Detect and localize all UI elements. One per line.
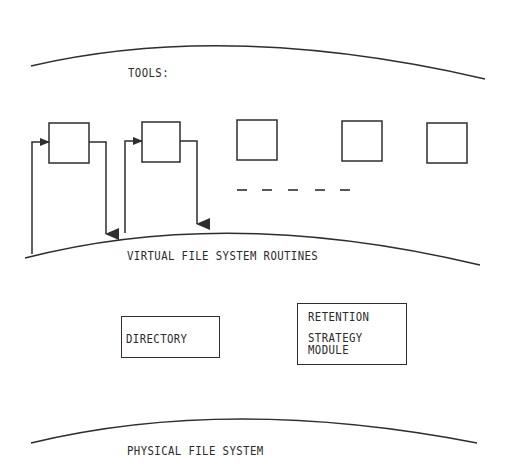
tool1-output-arrow: [89, 142, 106, 234]
physical-layer-arc: [31, 419, 477, 443]
directory-module: DIRECTORY: [121, 316, 220, 358]
tool2-output-arrow: [180, 141, 197, 224]
tool2-input-arrow: [125, 141, 142, 233]
tool-box-1: [49, 123, 89, 163]
retention-strategy-module: RETENTION STRATEGY MODULE: [297, 303, 407, 365]
tools-label: TOOLS:: [128, 65, 169, 80]
tools-layer-arc: [31, 46, 485, 79]
retention-label-line3: MODULE: [308, 343, 349, 357]
tool-box-2: [142, 122, 180, 162]
virtual-file-system-label: VIRTUAL FILE SYSTEM ROUTINES: [127, 248, 318, 263]
retention-label-line1: RETENTION: [308, 310, 369, 324]
directory-label: DIRECTORY: [126, 331, 187, 346]
tool-box-4: [342, 121, 382, 161]
diagram-canvas: [0, 0, 507, 476]
tool-box-5: [427, 123, 467, 163]
tool1-input-arrow: [32, 142, 49, 254]
physical-file-system-label: PHYSICAL FILE SYSTEM: [127, 443, 264, 458]
tool-box-3: [237, 120, 277, 160]
